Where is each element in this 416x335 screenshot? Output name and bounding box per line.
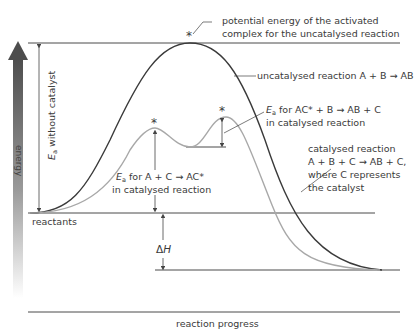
delta-h-label: ΔH [156,243,171,256]
activated-complex-label-line1: potential energy of the activated [222,15,379,28]
uncatalysed-reaction-label: uncatalysed reaction A + B → AB [257,70,414,83]
activated-complex-leader [193,22,212,34]
ea-step1-label-line2: in catalysed reaction [112,184,211,197]
ea-uncatalysed-text: without catalyst [46,71,57,150]
asterisk-uncatalysed-peak: * [186,30,192,43]
reactants-label: reactants [32,216,77,229]
catalysed-label-line2: A + B + C → AB + C, [308,156,406,169]
y-axis-label: energy [14,145,24,176]
asterisk-catalysed-peak1: * [151,117,157,130]
catalysed-label-line1: catalysed reaction [308,143,395,156]
activated-complex-label-line2: complex for the uncatalysed reaction [222,28,400,41]
asterisk-catalysed-peak2: * [219,105,225,118]
ea-step2-text: for AC* + B → AB + C [276,104,381,115]
catalysed-label-line3: where C represents [308,169,400,182]
ea-step1-text: for A + C → AC* [126,171,204,182]
ea-uncatalysed-subscript: a [51,150,59,154]
ea-uncatalysed-symbol: E [46,154,57,160]
catalysed-label-line4: the catalyst [308,182,364,195]
ea-uncatalysed-label: Ea without catalyst [46,71,59,160]
ea-step2-label-line2: in catalysed reaction [266,117,365,130]
x-axis-label: reaction progress [176,318,259,331]
enthalpy-symbol: H [163,243,171,255]
